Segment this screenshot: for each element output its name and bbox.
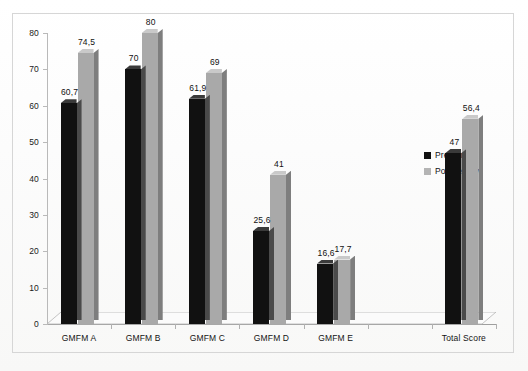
bar-pretherapy — [253, 231, 269, 324]
bar-pretherapy — [445, 153, 461, 324]
y-axis-tick-label: 40 — [15, 174, 39, 184]
y-axis-tick-mark — [43, 33, 48, 34]
bar-side-face — [77, 99, 82, 320]
x-axis-category-label: Total Score — [432, 333, 496, 343]
y-axis-tick-mark — [43, 251, 48, 252]
bar-pretherapy — [61, 103, 77, 324]
y-axis-tick-mark — [43, 179, 48, 180]
y-axis-tick-mark — [43, 288, 48, 289]
bar-side-face — [478, 115, 483, 320]
y-axis-tick-label: 0 — [15, 319, 39, 329]
bar-value-label: 74,5 — [68, 37, 106, 47]
y-axis-tick-label: 20 — [15, 246, 39, 256]
x-axis-tick-mark — [239, 324, 240, 329]
x-axis-category-label: GMFM E — [304, 333, 368, 343]
x-axis-tick-mark — [496, 324, 497, 329]
bar-value-label: 80 — [132, 17, 170, 27]
y-axis-tick-mark — [43, 69, 48, 70]
bar-side-face — [141, 65, 146, 320]
bar-side-face — [461, 149, 466, 320]
y-axis-tick-label: 10 — [15, 283, 39, 293]
bar-value-label: 61,9 — [179, 83, 217, 93]
x-axis-category-label: GMFM A — [47, 333, 111, 343]
bar-side-face — [269, 227, 274, 320]
bar-side-face — [205, 95, 210, 320]
bar-value-label: 41 — [260, 159, 298, 169]
y-axis-tick-mark — [43, 142, 48, 143]
bar-pretherapy — [317, 264, 333, 324]
bar-value-label: 25,6 — [243, 215, 281, 225]
x-axis-category-label: GMFM C — [175, 333, 239, 343]
legend-swatch-icon — [424, 168, 431, 175]
y-axis-tick-label: 80 — [15, 28, 39, 38]
y-axis-tick-label: 30 — [15, 210, 39, 220]
bar-front-face — [317, 264, 333, 324]
x-axis-tick-mark — [368, 324, 369, 329]
x-axis-category-label: GMFM D — [239, 333, 303, 343]
bar-front-face — [445, 153, 461, 324]
y-axis-tick-label: 50 — [15, 137, 39, 147]
bar-side-face — [158, 29, 163, 320]
y-axis-tick-mark — [43, 106, 48, 107]
bar-side-face — [333, 260, 338, 320]
y-axis-tick-mark — [43, 215, 48, 216]
bar-pretherapy — [189, 99, 205, 324]
x-axis-tick-mark — [111, 324, 112, 329]
bar-value-label: 17,7 — [324, 244, 362, 254]
x-axis-category-label: GMFM B — [111, 333, 175, 343]
x-axis-tick-mark — [304, 324, 305, 329]
x-axis-tick-mark — [175, 324, 176, 329]
bar-side-face — [222, 69, 227, 320]
y-axis-tick-label: 60 — [15, 101, 39, 111]
bar-front-face — [61, 103, 77, 324]
bar-value-label: 69 — [196, 57, 234, 67]
bar-value-label: 60,7 — [51, 87, 89, 97]
y-axis-tick-mark — [43, 324, 48, 325]
chart-container: 01020304050607080 GMFM AGMFM BGMFM CGMFM… — [0, 0, 528, 371]
legend-swatch-icon — [424, 152, 431, 159]
bar-front-face — [189, 99, 205, 324]
x-axis-tick-mark — [432, 324, 433, 329]
bar-side-face — [286, 171, 291, 320]
bar-value-label: 47 — [435, 137, 473, 147]
bar-pretherapy — [125, 69, 141, 324]
bar-front-face — [253, 231, 269, 324]
bar-value-label: 56,4 — [452, 103, 490, 113]
bar-value-label: 70 — [115, 53, 153, 63]
bar-front-face — [125, 69, 141, 324]
y-axis-tick-label: 70 — [15, 64, 39, 74]
bar-side-face — [350, 256, 355, 320]
bar-side-face — [94, 49, 99, 320]
